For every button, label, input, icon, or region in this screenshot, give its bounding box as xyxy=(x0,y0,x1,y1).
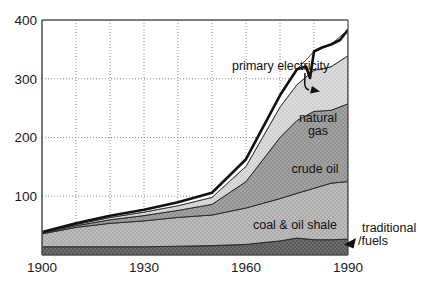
y-tick-400: 400 xyxy=(14,13,37,28)
x-tick-1960: 1960 xyxy=(231,260,261,275)
y-tick-300: 300 xyxy=(14,72,37,87)
label-traditional-fuels-line2: /fuels xyxy=(358,234,388,248)
chart-figure: 400 300 200 100 1900 1930 1960 1990 prim… xyxy=(0,0,421,290)
label-crude-oil: crude oil xyxy=(291,162,338,176)
energy-stacked-area-chart: 400 300 200 100 1900 1930 1960 1990 prim… xyxy=(0,0,421,290)
label-primary-electricity: primary electricity xyxy=(232,59,330,73)
x-tick-1930: 1930 xyxy=(129,260,159,275)
y-tick-100: 100 xyxy=(14,189,37,204)
label-traditional-fuels-line1: traditional xyxy=(362,221,416,235)
x-tick-1900: 1900 xyxy=(27,260,57,275)
x-tick-1990: 1990 xyxy=(333,260,363,275)
x-axis-ticks: 1900 1930 1960 1990 xyxy=(27,260,363,275)
y-axis-ticks: 400 300 200 100 xyxy=(14,13,37,204)
y-tick-200: 200 xyxy=(14,130,37,145)
label-natural-gas-line2: gas xyxy=(308,124,328,138)
label-coal-oil-shale: coal & oil shale xyxy=(253,218,337,232)
label-natural-gas-line1: natural xyxy=(299,111,337,125)
